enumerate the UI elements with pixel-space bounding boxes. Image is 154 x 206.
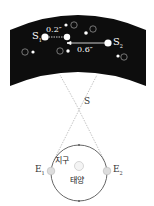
earth-label: 지구 xyxy=(55,154,69,165)
label-s1: S1 xyxy=(32,30,42,43)
label-s: S xyxy=(84,96,90,106)
label-s2: S2 xyxy=(113,36,123,49)
angle-small-label: 0.2″ xyxy=(46,25,62,34)
angle-large-label: 0.6″ xyxy=(77,45,93,54)
label-e2: E2 xyxy=(113,164,123,176)
sun-label: 태양 xyxy=(70,174,84,185)
label-e1: E1 xyxy=(35,164,45,176)
